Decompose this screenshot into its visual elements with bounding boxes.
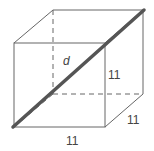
depth-label: 11	[127, 114, 139, 126]
height-label: 11	[108, 69, 120, 81]
diagonal-label: d	[63, 55, 70, 67]
top-left-depth-edge	[14, 10, 53, 43]
width-label: 11	[66, 135, 78, 147]
cube-diagram	[0, 0, 154, 151]
